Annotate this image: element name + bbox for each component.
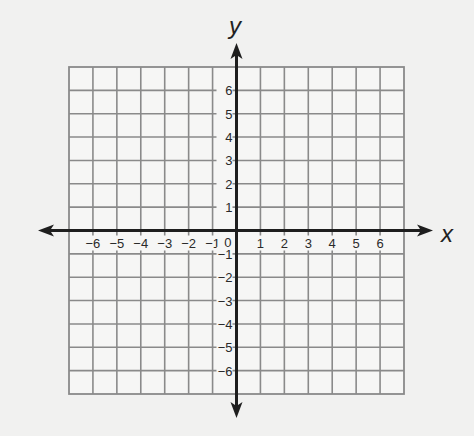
x-tick-label: 6	[376, 236, 383, 251]
y-tick-label: −2	[218, 270, 233, 285]
coordinate-grid: −6−5−4−3−2−1123456654321−1−2−3−4−5−60 x …	[0, 0, 474, 436]
origin-label: 0	[224, 235, 231, 250]
x-tick-label: 5	[353, 236, 360, 251]
x-tick-label: 4	[329, 236, 336, 251]
y-tick-label: 2	[225, 177, 232, 192]
x-tick-label: 2	[281, 236, 288, 251]
x-tick-label: 3	[305, 236, 312, 251]
x-tick-label: −2	[181, 236, 196, 251]
y-tick-label: 5	[225, 107, 232, 122]
coordinate-plane: −6−5−4−3−2−1123456654321−1−2−3−4−5−60 x …	[0, 0, 474, 436]
y-tick-label: 4	[225, 130, 232, 145]
x-tick-label: −4	[133, 236, 148, 251]
y-tick-label: −3	[218, 294, 233, 309]
y-tick-label: −5	[218, 340, 233, 355]
y-axis-label: y	[227, 12, 243, 39]
x-axis-label: x	[440, 220, 454, 247]
x-tick-label: −3	[157, 236, 172, 251]
y-tick-label: −6	[218, 364, 233, 379]
y-tick-label: 6	[225, 83, 232, 98]
y-tick-label: 3	[225, 153, 232, 168]
y-tick-label: −4	[218, 317, 233, 332]
x-tick-label: −5	[109, 236, 124, 251]
x-tick-label: −6	[86, 236, 101, 251]
x-tick-label: 1	[257, 236, 264, 251]
y-tick-label: 1	[225, 200, 232, 215]
